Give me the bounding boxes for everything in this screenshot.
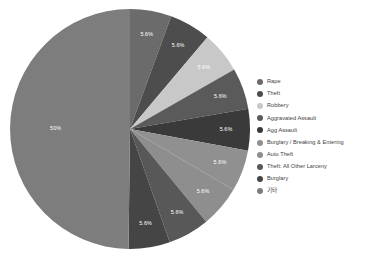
legend-item-label: Theft (267, 91, 280, 97)
pie-plot-area: 5.6%5.6%5.6%5.6%5.6%5.6%5.6%5.6%5.6%50% (8, 4, 252, 254)
pie-slice-value-label: 5.6% (139, 220, 152, 226)
legend-item-label: Burglary (267, 176, 288, 182)
pie-slice-value-label: 5.6% (140, 31, 153, 37)
legend-item-label: Theft: All Other Larceny (267, 164, 327, 170)
legend-item[interactable]: Agg Assault (257, 124, 365, 136)
legend-swatch-icon (257, 188, 263, 194)
legend-item[interactable]: Rape (257, 76, 365, 88)
pie-svg: 5.6%5.6%5.6%5.6%5.6%5.6%5.6%5.6%5.6%50% (8, 4, 252, 254)
legend-swatch-icon (257, 103, 263, 109)
legend-item-label: Robbery (267, 103, 289, 109)
legend-item-label: Auto Theft (267, 152, 293, 158)
pie-slice[interactable] (10, 9, 130, 249)
legend-item[interactable]: Robbery (257, 100, 365, 112)
legend-item[interactable]: Theft: All Other Larceny (257, 161, 365, 173)
legend-item[interactable]: Burglary / Breaking & Entering (257, 136, 365, 148)
pie-slice-value-label: 5.6% (214, 93, 227, 99)
legend-swatch-icon (257, 164, 263, 170)
legend-item-label: 기타 (267, 188, 277, 194)
legend-item-label: Rape (267, 79, 281, 85)
pie-slice-value-label: 5.6% (172, 42, 185, 48)
legend-item-label: Agg Assault (267, 128, 297, 134)
legend-item[interactable]: Burglary (257, 173, 365, 185)
legend-swatch-icon (257, 176, 263, 182)
chart-legend: RapeTheftRobberyAggravated AssaultAgg As… (257, 76, 365, 197)
legend-swatch-icon (257, 115, 263, 121)
legend-item-label: Aggravated Assault (267, 116, 316, 122)
pie-slice-value-label: 50% (50, 125, 61, 131)
legend-item-label: Burglary / Breaking & Entering (267, 140, 344, 146)
pie-slice-value-label: 5.6% (171, 209, 184, 215)
pie-chart-figure: 5.6%5.6%5.6%5.6%5.6%5.6%5.6%5.6%5.6%50% … (0, 0, 368, 257)
legend-swatch-icon (257, 127, 263, 133)
legend-item[interactable]: Auto Theft (257, 149, 365, 161)
legend-swatch-icon (257, 91, 263, 97)
legend-item[interactable]: Aggravated Assault (257, 112, 365, 124)
pie-slice-value-label: 5.6% (197, 188, 210, 194)
legend-swatch-icon (257, 140, 263, 146)
pie-slice-group (10, 9, 250, 249)
legend-item[interactable]: Theft (257, 88, 365, 100)
pie-slice-value-label: 5.6% (214, 159, 227, 165)
legend-item[interactable]: 기타 (257, 185, 365, 197)
legend-swatch-icon (257, 79, 263, 85)
legend-swatch-icon (257, 152, 263, 158)
pie-slice-value-label: 5.6% (220, 126, 233, 132)
pie-slice-value-label: 5.6% (197, 64, 210, 70)
